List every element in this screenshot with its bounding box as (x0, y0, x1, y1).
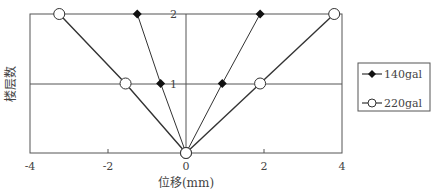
y-tick-label-2: 2 (170, 8, 177, 21)
x-axis-title: 位移(mm) (158, 175, 214, 190)
open-circle-marker (255, 78, 266, 89)
x-tick-label: 4 (339, 160, 346, 173)
y-axis-title: 楼层数 (3, 66, 18, 102)
x-tick-label: 0 (183, 160, 190, 173)
y-tick-label-1: 1 (170, 78, 177, 91)
open-circle-marker (181, 148, 192, 159)
filled-diamond-marker (218, 79, 227, 88)
legend-label-220gal: 220gal (384, 97, 423, 110)
filled-diamond-marker (156, 79, 165, 88)
filled-diamond-marker (256, 10, 265, 19)
x-tick-label: 2 (261, 160, 268, 173)
x-tick-label: -4 (25, 160, 36, 173)
open-circle-icon (368, 99, 376, 107)
legend-label-140gal: 140gal (384, 68, 423, 81)
chart-canvas: 2 1 -4 -2 0 2 4 位移(mm) 楼层数 140gal 220gal (0, 0, 435, 196)
filled-diamond-marker (133, 10, 142, 19)
legend: 140gal 220gal (358, 63, 430, 111)
open-circle-marker (54, 9, 65, 20)
x-tick-label: -2 (103, 160, 114, 173)
open-circle-marker (329, 9, 340, 20)
open-circle-marker (120, 78, 131, 89)
